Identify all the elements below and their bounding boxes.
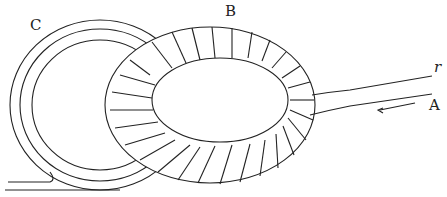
diagram: C B r A [0,0,447,197]
label-b: B [225,2,236,20]
torus-b [105,27,315,184]
diagram-drawing [0,0,447,197]
label-r: r [434,58,441,76]
leads [310,76,432,115]
label-a: A [429,96,440,114]
label-c: C [30,16,41,34]
